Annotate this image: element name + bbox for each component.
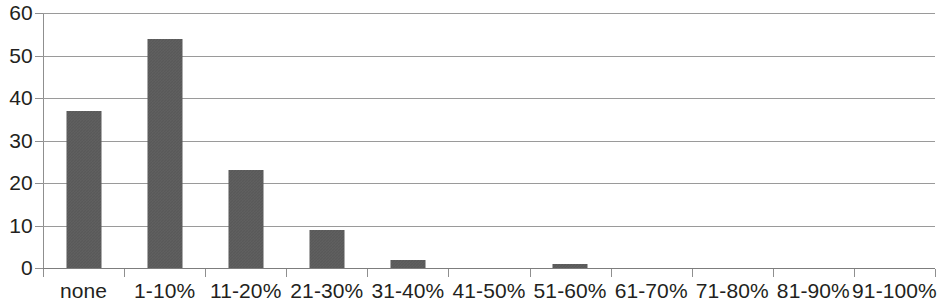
x-axis-tick-label: 71-80% <box>696 279 769 302</box>
x-axis-tick <box>854 269 855 277</box>
bar-chart: 0102030405060 none1-10%11-20%21-30%31-40… <box>0 0 938 308</box>
bar-slot <box>773 13 854 268</box>
y-axis-tick-label: 30 <box>1 130 33 151</box>
x-axis-tick <box>773 269 774 277</box>
x-axis-tick <box>692 269 693 277</box>
bar-slot <box>611 13 692 268</box>
x-axis-tick <box>611 269 612 277</box>
x-axis-tick-label: none <box>60 279 107 302</box>
y-axis-tick-label: 0 <box>1 257 33 278</box>
y-axis-tick-label: 20 <box>1 172 33 193</box>
y-axis-tick <box>35 268 43 269</box>
x-axis-ticks <box>43 269 935 278</box>
x-axis-tick-label: 31-40% <box>371 279 444 302</box>
x-axis-tick <box>935 269 936 277</box>
x-axis-tick <box>43 269 44 277</box>
bar <box>147 39 182 269</box>
y-axis-tick <box>35 226 43 227</box>
bar-slot <box>43 13 124 268</box>
y-axis-tick <box>35 98 43 99</box>
x-axis-tick <box>124 269 125 277</box>
bar <box>228 170 263 268</box>
bar <box>553 264 588 268</box>
bar-slot <box>530 13 611 268</box>
bar-slot <box>367 13 448 268</box>
x-axis-tick <box>286 269 287 277</box>
x-axis-tick <box>367 269 368 277</box>
x-axis-tick <box>530 269 531 277</box>
bar-slot <box>124 13 205 268</box>
y-axis-labels: 0102030405060 <box>0 0 33 308</box>
x-axis-tick-label: 1-10% <box>134 279 195 302</box>
x-axis-tick-label: 11-20% <box>210 279 281 302</box>
bar-slot <box>854 13 935 268</box>
y-axis-tick-label: 40 <box>1 87 33 108</box>
bars-layer <box>43 13 935 268</box>
y-axis-tick-label: 60 <box>1 2 33 23</box>
bar <box>390 260 425 269</box>
y-axis-tick <box>35 183 43 184</box>
x-axis-tick <box>205 269 206 277</box>
x-axis-labels: none1-10%11-20%21-30%31-40%41-50%51-60%6… <box>43 279 935 308</box>
x-axis-tick-label: 91-100% <box>852 279 937 302</box>
y-axis-tick-label: 50 <box>1 45 33 66</box>
x-axis-tick-label: 51-60% <box>534 279 607 302</box>
y-axis-tick-label: 10 <box>1 215 33 236</box>
y-axis-tick <box>35 141 43 142</box>
x-axis-tick-label: 81-90% <box>777 279 850 302</box>
bar-slot <box>205 13 286 268</box>
x-axis-tick-label: 41-50% <box>453 279 526 302</box>
bar-slot <box>286 13 367 268</box>
x-axis-tick <box>448 269 449 277</box>
bar-slot <box>448 13 529 268</box>
x-axis-tick-label: 61-70% <box>615 279 688 302</box>
y-axis-tick <box>35 13 43 14</box>
bar <box>309 230 344 268</box>
y-axis-tick <box>35 56 43 57</box>
bar <box>66 111 101 268</box>
bar-slot <box>692 13 773 268</box>
x-axis-tick-label: 21-30% <box>290 279 363 302</box>
